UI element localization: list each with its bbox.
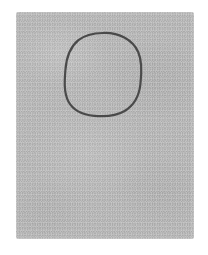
gray-paper-panel	[16, 12, 194, 239]
paper-grain-texture	[16, 12, 194, 239]
drawing-canvas	[0, 0, 208, 255]
